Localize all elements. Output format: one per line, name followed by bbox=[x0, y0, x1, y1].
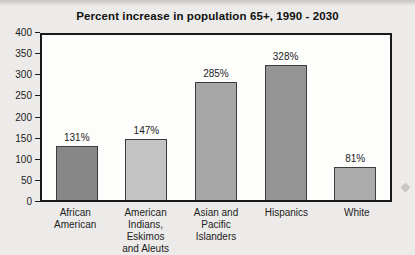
page-scan-edge bbox=[0, 0, 415, 6]
bar-slot-african-american: 131% bbox=[42, 35, 112, 200]
y-tick-label: 350 bbox=[15, 49, 32, 59]
x-axis-label-hispanics: Hispanics bbox=[251, 207, 321, 255]
y-tick-label: 100 bbox=[15, 155, 32, 165]
bar-slot-american-indians-eskimos-and-aleuts: 147% bbox=[112, 35, 182, 200]
bar-hispanics bbox=[265, 65, 307, 200]
bar-value-label-hispanics: 328% bbox=[251, 51, 321, 62]
y-tick-label: 400 bbox=[15, 28, 32, 38]
y-tick-label: 0 bbox=[26, 197, 32, 207]
bar-slot-hispanics: 328% bbox=[251, 35, 321, 200]
x-axis-label-white: White bbox=[322, 207, 392, 255]
bar-value-label-asian-and-pacific-islanders: 285% bbox=[181, 68, 251, 79]
bar-african-american bbox=[56, 146, 98, 200]
plot-area: 131%147%285%328%81% bbox=[40, 33, 392, 202]
y-tick-label: 150 bbox=[15, 134, 32, 144]
bar-asian-and-pacific-islanders bbox=[195, 82, 237, 200]
bar-american-indians-eskimos-and-aleuts bbox=[125, 139, 167, 200]
x-axis-label-asian-and-pacific-islanders: Asian and Pacific Islanders bbox=[181, 207, 251, 255]
y-tick-label: 250 bbox=[15, 91, 32, 101]
y-tick-label: 300 bbox=[15, 70, 32, 80]
scanned-chart-page: Percent increase in population 65+, 1990… bbox=[0, 0, 415, 255]
chart-title: Percent increase in population 65+, 1990… bbox=[0, 10, 415, 22]
x-axis-label-african-american: African American bbox=[40, 207, 110, 255]
y-tick-label: 200 bbox=[15, 113, 32, 123]
bar-value-label-american-indians-eskimos-and-aleuts: 147% bbox=[112, 125, 182, 136]
bar-white bbox=[334, 167, 376, 200]
x-axis-label-american-indians-eskimos-and-aleuts: American Indians, Eskimos and Aleuts bbox=[110, 207, 180, 255]
bar-slot-asian-and-pacific-islanders: 285% bbox=[181, 35, 251, 200]
bar-slot-white: 81% bbox=[320, 35, 390, 200]
x-axis-labels: African AmericanAmerican Indians, Eskimo… bbox=[40, 207, 392, 255]
page-speck-icon bbox=[401, 183, 411, 193]
bar-value-label-african-american: 131% bbox=[42, 132, 112, 143]
y-axis: 050100150200250300350400 bbox=[0, 33, 40, 202]
y-tick-label: 50 bbox=[21, 176, 32, 186]
bar-value-label-white: 81% bbox=[320, 153, 390, 164]
